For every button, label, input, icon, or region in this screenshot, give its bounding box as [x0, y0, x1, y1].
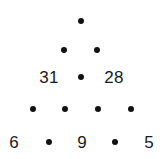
pyramid-value-r3c1: 31 — [39, 69, 58, 86]
pyramid-dot-r5c4 — [112, 139, 118, 145]
pyramid-value-r5c1: 6 — [9, 134, 19, 151]
pyramid-dot-r4c1 — [30, 106, 36, 112]
number-pyramid-figure: 3128695 — [0, 0, 165, 159]
pyramid-dot-r2c2 — [94, 47, 100, 53]
pyramid-dot-r4c4 — [128, 106, 134, 112]
pyramid-dot-r1c1 — [78, 18, 84, 24]
pyramid-dot-r4c3 — [95, 106, 101, 112]
pyramid-value-r3c3: 28 — [104, 69, 123, 86]
pyramid-dot-r3c2 — [78, 74, 84, 80]
pyramid-dot-r5c2 — [46, 139, 52, 145]
pyramid-value-r5c5: 5 — [144, 134, 154, 151]
pyramid-dot-r4c2 — [62, 106, 68, 112]
pyramid-dot-r2c1 — [61, 47, 67, 53]
pyramid-value-r5c3: 9 — [77, 134, 87, 151]
